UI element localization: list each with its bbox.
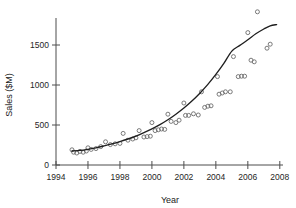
- chart-canvas: 050010001500 199419961998200020022004200…: [0, 0, 296, 208]
- y-tick-label: 1500: [30, 40, 49, 50]
- x-tick-label: 2002: [174, 172, 193, 182]
- y-tick-label: 500: [35, 120, 49, 130]
- sales-vs-year-chart: 050010001500 199419961998200020022004200…: [0, 0, 296, 208]
- x-tick-label: 1996: [79, 172, 98, 182]
- y-axis-title: Sales ($M): [4, 73, 14, 117]
- y-tick-label: 0: [44, 160, 49, 170]
- x-tick-label: 1998: [110, 172, 129, 182]
- y-tick-label: 1000: [30, 80, 49, 90]
- x-tick-label: 2006: [238, 172, 257, 182]
- x-tick-label: 1994: [47, 172, 66, 182]
- x-tick-label: 2004: [206, 172, 225, 182]
- x-axis-title: Year: [161, 195, 179, 205]
- x-tick-label: 2008: [270, 172, 289, 182]
- x-tick-label: 2000: [142, 172, 161, 182]
